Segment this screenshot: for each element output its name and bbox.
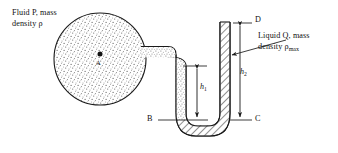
manometer-figure-root: Fluid P, mass density ρ Liquid Q, mass d…: [0, 0, 338, 153]
point-c-label: C: [255, 114, 260, 123]
height-h1-subscript: 1: [204, 86, 207, 92]
fluid-p-label-line2: density ρ: [12, 19, 43, 28]
fluid-p-label: Fluid P, mass density ρ: [12, 8, 57, 29]
point-a-marker: [98, 52, 103, 57]
fluid-p-label-line1: Fluid P, mass: [12, 8, 57, 17]
liquid-q-label: Liquid Q, mass density ρmax: [258, 31, 310, 54]
liquid-q-density-subscript: max: [289, 45, 299, 51]
height-h2-label: h2: [240, 67, 247, 77]
point-a-label: A: [96, 59, 101, 66]
height-h1-label: h1: [200, 82, 207, 92]
point-d-label: D: [255, 15, 261, 24]
connecting-pipe: [141, 22, 230, 136]
height-h2-subscript: 2: [244, 71, 247, 77]
liquid-q-label-line1: Liquid Q, mass: [258, 31, 310, 40]
liquid-q-label-line2: density ρ: [258, 42, 289, 51]
point-b-label: B: [147, 114, 152, 123]
